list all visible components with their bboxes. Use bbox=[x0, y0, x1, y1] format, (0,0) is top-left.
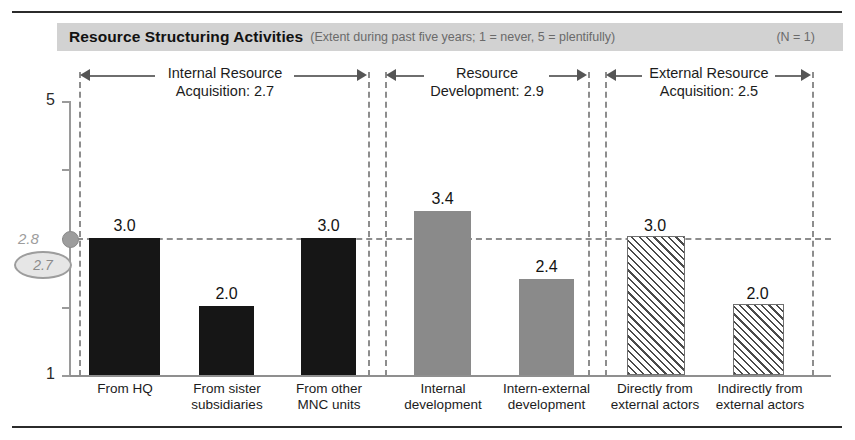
plot-area: 5 1 2.8 2.7 Internal Resource Acquisitio… bbox=[0, 0, 855, 440]
bar-column-1: 3.0 bbox=[89, 101, 160, 375]
chart-page: Resource Structuring Activities (Extent … bbox=[0, 0, 855, 440]
group-1-title: Internal Resource Acquisition: 2.7 bbox=[150, 64, 300, 100]
category-label-7: Indirectly from external actors bbox=[705, 381, 815, 413]
group-1-bracket-right bbox=[294, 75, 357, 77]
category-label-3-line2: MNC units bbox=[283, 397, 375, 413]
group-separator-3 bbox=[385, 72, 387, 376]
category-label-3: From other MNC units bbox=[283, 381, 375, 413]
mean-dot-marker bbox=[62, 231, 79, 248]
bar-from-other-mnc-units[interactable] bbox=[301, 238, 356, 375]
oval-marker: 2.7 bbox=[14, 251, 72, 279]
bar-value-2: 2.0 bbox=[199, 285, 254, 303]
y-tick-5 bbox=[62, 101, 70, 103]
oval-marker-label: 2.7 bbox=[33, 257, 52, 273]
bar-column-3: 3.0 bbox=[301, 101, 356, 375]
y-tick-1 bbox=[62, 375, 70, 377]
category-label-4-line2: development bbox=[397, 397, 489, 413]
bar-indirectly-from-external-actors[interactable] bbox=[733, 304, 784, 375]
group-separator-6 bbox=[812, 72, 814, 376]
group-1-title-line1: Internal Resource bbox=[168, 65, 282, 81]
group-2-title: Resource Development: 2.9 bbox=[412, 64, 562, 100]
group-2-title-line2: Development: 2.9 bbox=[412, 82, 562, 100]
category-label-6-line1: Directly from bbox=[617, 381, 693, 396]
bar-value-6: 3.0 bbox=[627, 217, 683, 235]
bar-internal-development[interactable] bbox=[414, 211, 471, 375]
x-axis-line bbox=[69, 375, 831, 377]
group-1-bracket-left bbox=[90, 75, 155, 77]
bar-from-hq[interactable] bbox=[89, 238, 160, 375]
category-label-7-line2: external actors bbox=[705, 397, 815, 413]
category-label-5-line2: development bbox=[494, 397, 599, 413]
category-label-2-line1: From sister bbox=[193, 381, 261, 396]
mean-reference-label: 2.8 bbox=[18, 230, 39, 247]
y-tick-4 bbox=[62, 169, 70, 171]
bar-directly-from-external-actors[interactable] bbox=[627, 236, 685, 375]
bar-column-6: 3.0 bbox=[627, 101, 683, 375]
bar-intern-external-development[interactable] bbox=[519, 279, 574, 375]
bar-column-2: 2.0 bbox=[199, 101, 254, 375]
group-2-right-arrow-icon bbox=[577, 69, 587, 81]
bar-value-3: 3.0 bbox=[301, 217, 356, 235]
group-3-title-line1: External Resource bbox=[649, 65, 768, 81]
category-label-6: Directly from external actors bbox=[602, 381, 708, 413]
bar-value-1: 3.0 bbox=[89, 217, 160, 235]
y-axis-label-bottom: 1 bbox=[25, 365, 55, 383]
group-1-right-arrow-icon bbox=[357, 69, 367, 81]
bar-column-4: 3.4 bbox=[414, 101, 471, 375]
category-label-2-line2: subsidiaries bbox=[181, 397, 273, 413]
bar-column-7: 2.0 bbox=[733, 101, 782, 375]
category-label-5: Intern-external development bbox=[494, 381, 599, 413]
y-tick-2 bbox=[62, 307, 70, 309]
group-3-title-line2: Acquisition: 2.5 bbox=[636, 82, 782, 100]
category-label-5-line1: Intern-external bbox=[503, 381, 590, 396]
bar-from-sister-subsidiaries[interactable] bbox=[199, 306, 254, 375]
category-label-7-line1: Indirectly from bbox=[718, 381, 803, 396]
group-separator-4 bbox=[588, 72, 590, 376]
bar-value-7: 2.0 bbox=[733, 285, 782, 303]
bar-value-5: 2.4 bbox=[519, 258, 574, 276]
category-label-6-line2: external actors bbox=[602, 397, 708, 413]
category-label-4: Internal development bbox=[397, 381, 489, 413]
group-separator-5 bbox=[605, 72, 607, 376]
group-separator-2 bbox=[368, 72, 370, 376]
group-3-left-arrow-icon bbox=[606, 69, 616, 81]
category-label-1-line1: From HQ bbox=[97, 381, 153, 396]
bar-column-5: 2.4 bbox=[519, 101, 574, 375]
category-label-1: From HQ bbox=[80, 381, 170, 397]
category-label-2: From sister subsidiaries bbox=[181, 381, 273, 413]
category-label-3-line1: From other bbox=[296, 381, 362, 396]
bar-value-4: 3.4 bbox=[414, 190, 471, 208]
group-2-left-arrow-icon bbox=[386, 69, 396, 81]
group-separator-1 bbox=[79, 72, 81, 376]
group-3-title: External Resource Acquisition: 2.5 bbox=[636, 64, 782, 100]
group-3-right-arrow-icon bbox=[801, 69, 811, 81]
y-axis-label-top: 5 bbox=[25, 91, 55, 109]
group-1-title-line2: Acquisition: 2.7 bbox=[150, 82, 300, 100]
group-2-title-line1: Resource bbox=[456, 65, 518, 81]
category-label-4-line1: Internal bbox=[420, 381, 465, 396]
group-1-left-arrow-icon bbox=[80, 69, 90, 81]
